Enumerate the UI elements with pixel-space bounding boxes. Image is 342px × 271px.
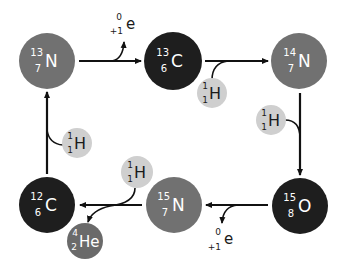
atomic-number: 6 [161,63,167,74]
atomic-number: 7 [35,63,41,74]
proton-h1: 1 1 H [197,78,227,108]
mass-number: 12 [30,191,43,202]
mass-number: 1 [202,81,208,91]
mass-number: 14 [283,47,296,58]
mass-number: 15 [283,192,296,203]
proton-h2: 1 1 H [256,105,286,135]
element-symbol: He [79,233,100,251]
nucleus-o15: 15 8 O [272,178,328,234]
mass-number: 4 [72,228,78,238]
positron-e1: 0 +1 e [110,12,136,36]
mass-number: 0 [215,227,221,237]
atomic-number: 1 [202,95,208,105]
cno-cycle-diagram: 13 7 N 13 6 C 14 7 N 15 8 O 15 7 N 12 6 … [0,0,342,271]
atomic-number: 7 [162,207,168,218]
atomic-number: 8 [288,208,294,219]
positron-emission-branch-1 [112,42,124,61]
element-symbol: C [171,51,183,71]
proton-capture-branch-4 [47,130,63,145]
mass-number: 1 [67,131,73,141]
proton-capture-branch-2 [285,120,300,138]
proton-h3: 1 1 H [121,156,153,188]
nucleus-c12: 12 6 C [19,177,75,233]
charge: +1 [208,242,221,252]
element-symbol: H [74,134,86,153]
nucleus-c13: 13 6 C [144,32,202,90]
element-symbol: C [45,195,57,215]
mass-number: 1 [127,160,133,170]
nucleus-he4: 4 2 He [67,223,103,259]
nucleus-n15: 15 7 N [146,177,202,233]
particle-symbol: e [224,230,233,248]
atomic-number: 1 [261,122,267,132]
nucleus-n13: 13 7 N [19,33,75,89]
particle-symbol: e [126,15,135,33]
proton-h4: 1 1 H [62,128,92,158]
element-symbol: N [298,51,311,71]
nucleus-n14: 14 7 N [271,33,327,89]
proton-capture-branch-1 [212,61,228,80]
atomic-number: 6 [35,207,41,218]
mass-number: 15 [157,191,170,202]
mass-number: 1 [261,108,267,118]
atomic-number: 1 [67,145,73,155]
positron-e2: 0 +1 e [208,227,234,252]
charge: +1 [110,26,123,36]
atomic-number: 7 [288,63,294,74]
atomic-number: 2 [71,242,77,252]
element-symbol: O [298,196,311,216]
element-symbol: H [268,111,280,130]
element-symbol: H [134,163,146,182]
mass-number: 0 [116,12,122,22]
positron-emission-branch-2 [222,205,238,223]
element-symbol: N [45,51,58,71]
element-symbol: N [172,195,185,215]
mass-number: 13 [30,47,43,58]
atomic-number: 1 [127,174,133,184]
mass-number: 13 [156,47,169,58]
element-symbol: H [209,84,221,103]
